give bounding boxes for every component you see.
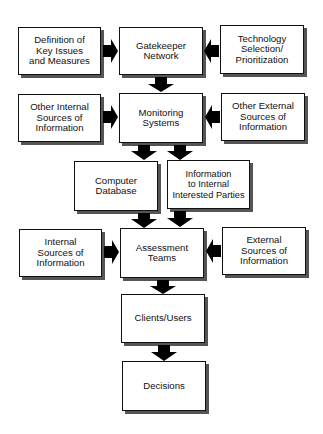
node-label: Monitoring Systems bbox=[139, 108, 184, 129]
node-label: Information to Internal Interested Parti… bbox=[172, 169, 244, 201]
node-label: Clients/Users bbox=[134, 313, 191, 324]
node-label: Definition of Key Issues and Measures bbox=[29, 35, 90, 67]
arrow-down-icon bbox=[167, 145, 193, 160]
arrow-right-icon bbox=[104, 240, 119, 264]
node-label: Other Internal Sources of Information bbox=[30, 102, 89, 134]
node-label: Assessment Teams bbox=[136, 243, 188, 264]
node-monitoring: Monitoring Systems bbox=[119, 93, 203, 143]
node-computer-database: Computer Database bbox=[74, 161, 158, 211]
node-decisions: Decisions bbox=[122, 361, 206, 411]
arrow-left-icon bbox=[205, 105, 220, 129]
node-label: Other External Sources of Information bbox=[232, 101, 294, 133]
node-label: Internal Sources of Information bbox=[37, 237, 85, 269]
arrow-left-icon bbox=[206, 239, 221, 263]
arrow-right-icon bbox=[103, 105, 118, 129]
arrow-left-icon bbox=[204, 39, 219, 63]
node-label: Technology Selection/ Prioritization bbox=[236, 34, 289, 66]
arrow-down-icon bbox=[150, 280, 176, 294]
node-assessment-teams: Assessment Teams bbox=[120, 228, 204, 278]
arrow-down-icon bbox=[131, 145, 157, 160]
node-gatekeeper: Gatekeeper Network bbox=[119, 27, 203, 75]
node-label: External Sources of Information bbox=[240, 235, 288, 267]
node-internal-sources: Internal Sources of Information bbox=[19, 229, 102, 277]
node-label: Gatekeeper Network bbox=[136, 41, 186, 62]
node-clients-users: Clients/Users bbox=[121, 294, 205, 343]
node-label: Computer Database bbox=[95, 176, 137, 197]
node-other-external: Other External Sources of Information bbox=[221, 93, 305, 141]
arrow-down-icon bbox=[131, 213, 157, 228]
arrow-down-icon bbox=[148, 77, 174, 92]
arrow-right-icon bbox=[103, 39, 118, 63]
node-other-internal: Other Internal Sources of Information bbox=[18, 94, 101, 142]
node-definition: Definition of Key Issues and Measures bbox=[18, 27, 101, 75]
node-external-sources: External Sources of Information bbox=[222, 227, 306, 275]
node-info-internal-parties: Information to Internal Interested Parti… bbox=[167, 160, 250, 209]
arrow-down-icon bbox=[167, 211, 193, 227]
arrow-down-icon bbox=[151, 345, 177, 361]
node-technology: Technology Selection/ Prioritization bbox=[220, 25, 304, 74]
node-label: Decisions bbox=[143, 381, 185, 392]
